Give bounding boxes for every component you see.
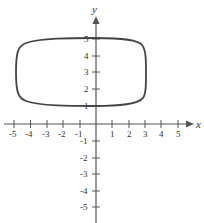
y-tick-label: 1 bbox=[84, 101, 89, 111]
y-tick-label: -2 bbox=[80, 153, 88, 163]
y-axis-label: y bbox=[91, 3, 97, 15]
x-axis-label: x bbox=[195, 118, 201, 130]
y-tick-label: -3 bbox=[80, 169, 88, 179]
y-tick-label: 3 bbox=[84, 67, 89, 77]
x-tick-label: 3 bbox=[143, 129, 148, 139]
x-tick-label: 2 bbox=[127, 129, 132, 139]
x-tick-label: 1 bbox=[110, 129, 115, 139]
chart-canvas: y x -5 -4 -3 -2 -1 1 2 3 4 5 5 4 3 2 1 -… bbox=[0, 0, 204, 223]
y-tick-label: -4 bbox=[80, 186, 88, 196]
y-tick-label: 5 bbox=[84, 34, 89, 44]
y-tick-label: 4 bbox=[84, 51, 89, 61]
y-tick-label: -5 bbox=[80, 202, 88, 212]
x-axis-arrow-icon bbox=[186, 121, 194, 128]
x-tick-label: 5 bbox=[176, 129, 181, 139]
x-tick-label: -3 bbox=[42, 129, 50, 139]
x-tick-label: 4 bbox=[159, 129, 164, 139]
y-tick-label: 2 bbox=[84, 84, 89, 94]
x-tick-label: -2 bbox=[58, 129, 66, 139]
y-axis-arrow-icon bbox=[93, 16, 100, 24]
closed-curve bbox=[16, 38, 146, 106]
x-tick-label: -5 bbox=[9, 129, 17, 139]
x-tick-label: -4 bbox=[25, 129, 33, 139]
y-tick-label: -1 bbox=[80, 136, 88, 146]
